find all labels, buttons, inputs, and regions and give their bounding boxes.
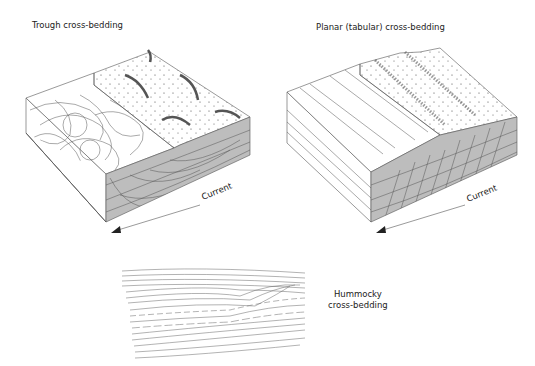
- hummocky-sketch: [122, 269, 305, 358]
- trough-block: [26, 50, 250, 233]
- trough-current-label: Current: [200, 180, 234, 201]
- planar-current-label: Current: [465, 182, 499, 203]
- planar-block: [287, 48, 517, 233]
- diagram-canvas: Current Current: [0, 0, 535, 366]
